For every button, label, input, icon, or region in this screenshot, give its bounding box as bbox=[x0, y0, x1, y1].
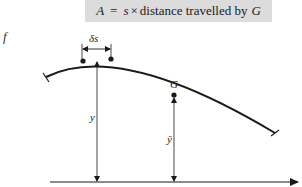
y-bar-label: ȳ bbox=[167, 133, 172, 145]
arc-point-end bbox=[108, 56, 113, 61]
curve bbox=[46, 66, 275, 133]
arc-point-start bbox=[80, 58, 85, 63]
diagram-canvas bbox=[0, 0, 302, 187]
centroid-point bbox=[171, 92, 176, 97]
y-label: y bbox=[90, 111, 95, 123]
curve-end-tick-left bbox=[43, 73, 49, 82]
delta-s-label: δs bbox=[89, 32, 98, 44]
centroid-label: G bbox=[170, 78, 178, 90]
